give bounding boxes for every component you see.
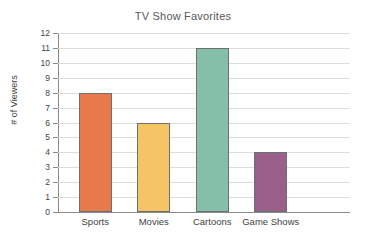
y-tick-mark <box>53 182 58 183</box>
y-tick-label: 7 <box>12 103 50 113</box>
y-axis-ticks: 0123456789101112 <box>0 33 50 213</box>
x-tick-label: Game Shows <box>242 216 299 227</box>
plot-area <box>58 33 350 212</box>
y-tick-label: 6 <box>12 118 50 128</box>
chart-title: TV Show Favorites <box>0 10 366 22</box>
x-axis-line <box>58 212 350 213</box>
y-tick-mark <box>53 212 58 213</box>
y-tick-label: 5 <box>12 132 50 142</box>
y-tick-mark <box>53 48 58 49</box>
y-tick-mark <box>53 93 58 94</box>
y-tick-label: 3 <box>12 162 50 172</box>
y-tick-mark <box>53 152 58 153</box>
y-tick-label: 1 <box>12 192 50 202</box>
bar <box>137 123 170 213</box>
y-tick-mark <box>53 137 58 138</box>
x-tick-label: Cartoons <box>193 216 232 227</box>
bar <box>79 93 112 212</box>
y-tick-label: 11 <box>12 43 50 53</box>
y-tick-label: 10 <box>12 58 50 68</box>
x-tick-label: Movies <box>139 216 169 227</box>
y-tick-label: 4 <box>12 147 50 157</box>
bar <box>254 152 287 212</box>
y-tick-label: 8 <box>12 88 50 98</box>
y-tick-mark <box>53 167 58 168</box>
x-tick-label: Sports <box>82 216 109 227</box>
gridline <box>58 33 350 34</box>
y-tick-mark <box>53 123 58 124</box>
y-tick-mark <box>53 33 58 34</box>
y-tick-mark <box>53 78 58 79</box>
y-tick-label: 2 <box>12 177 50 187</box>
y-tick-mark <box>53 108 58 109</box>
y-tick-label: 9 <box>12 73 50 83</box>
y-tick-mark <box>53 63 58 64</box>
y-tick-label: 12 <box>12 28 50 38</box>
bar <box>196 48 229 212</box>
bar-chart: TV Show Favorites # of Viewers 012345678… <box>0 0 366 244</box>
y-tick-label: 0 <box>12 207 50 217</box>
y-tick-mark <box>53 197 58 198</box>
